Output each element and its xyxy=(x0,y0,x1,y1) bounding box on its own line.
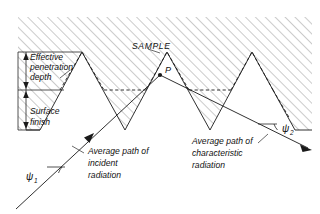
psi-2-symbol: ψ xyxy=(282,123,290,134)
effective-penetration-depth-line-1: Effective xyxy=(30,52,63,62)
sample-label: SAMPLE xyxy=(132,41,170,51)
incident-path-line-1: Average path of xyxy=(87,146,150,156)
incident-path-line-3: radiation xyxy=(88,170,121,180)
incident-path-line-2: incident xyxy=(88,158,118,168)
effective-penetration-depth-line-3: depth xyxy=(30,72,52,82)
surface-finish-line-2: finish xyxy=(30,117,50,127)
psi-1-subscript: 1 xyxy=(34,177,38,184)
psi-2-subscript: 2 xyxy=(289,129,294,136)
psi-1-symbol: ψ xyxy=(26,171,34,182)
surface-finish-line-1: Surface xyxy=(30,106,60,116)
exit-ray-arrowhead xyxy=(300,145,312,153)
point-p-label: P xyxy=(165,65,171,75)
radiation-path-diagram: SAMPLE P Effective penetration depth Sur… xyxy=(0,0,320,214)
diagram-canvas: SAMPLE P Effective penetration depth Sur… xyxy=(0,0,320,214)
effective-penetration-depth-line-2: penetration xyxy=(29,62,73,72)
characteristic-path-line-1: Average path of xyxy=(191,136,254,146)
point-p-marker xyxy=(158,73,162,77)
characteristic-path-line-2: characteristic xyxy=(192,148,243,158)
characteristic-path-line-3: radiation xyxy=(192,160,225,170)
